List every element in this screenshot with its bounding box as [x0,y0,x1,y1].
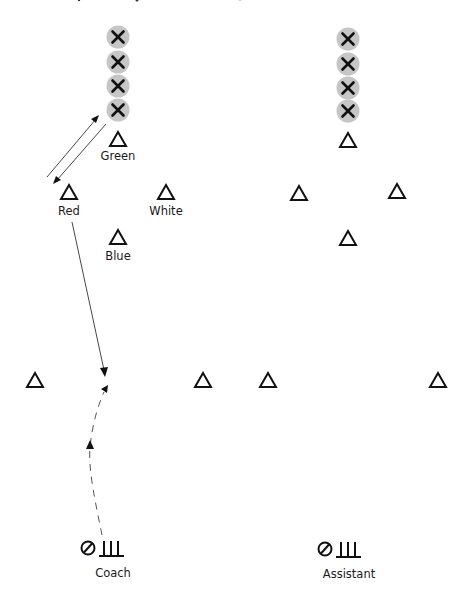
mini-goal-icon [336,542,361,557]
cropped-caption [78,0,241,2]
cone-label-red: Red [58,204,80,218]
mini-goal-icon [99,541,124,556]
cone-icon [195,373,211,387]
player-queue-left [107,26,130,122]
right-drill: Assistant [260,28,446,582]
x-player-icon [337,77,360,100]
ball-icon [319,543,332,556]
cone-blue-icon [110,230,126,244]
drill-diagram: Green Red White Blue [0,0,476,608]
x-player-icon [107,26,130,49]
cone-icon [27,373,43,387]
cone-white-icon [158,185,174,199]
pass-arrow-to-red [53,124,106,184]
x-player-icon [107,51,130,74]
cone-red-icon [61,185,77,199]
cone-icon [291,186,307,200]
cone-icon [430,373,446,387]
cone-icon [260,373,276,387]
assistant-label: Assistant [323,567,376,581]
cone-label-green: Green [101,149,136,163]
pass-arrow-to-queue [47,115,99,177]
coach: Coach [82,541,131,580]
player-queue-right [337,28,360,123]
x-player-icon [107,99,130,122]
cone-icon [340,231,356,245]
cone-icon [389,184,405,198]
left-drill: Green Red White Blue [27,26,211,581]
run-arrow-to-midfield [72,222,108,377]
assistant: Assistant [319,542,376,581]
dribble-path [86,385,108,535]
ball-icon [82,542,95,555]
coach-label: Coach [95,566,131,580]
cone-label-white: White [149,204,182,218]
x-player-icon [337,53,360,76]
x-player-icon [107,75,130,98]
x-player-icon [337,28,360,51]
x-player-icon [337,100,360,123]
cone-green-icon [110,132,126,146]
cone-icon [340,133,356,147]
cone-label-blue: Blue [105,249,130,263]
